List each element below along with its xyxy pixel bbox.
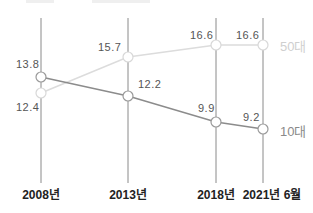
series-label-10s: 10대 [280, 124, 306, 139]
point-50s-2018 [211, 40, 221, 50]
header-remnant [92, 0, 150, 3]
value-label-50s-2008: 12.4 [16, 101, 39, 113]
line-chart: 12.4 15.7 16.6 16.6 13.8 12.2 9.9 9.2 50… [0, 0, 313, 213]
point-10s-2013 [123, 91, 133, 101]
value-label-10s-2008: 13.8 [16, 58, 39, 70]
x-tick-2018: 2018년 [197, 188, 235, 202]
point-10s-2008 [36, 72, 46, 82]
point-10s-2018 [211, 117, 221, 127]
value-label-50s-2018: 16.6 [190, 29, 213, 41]
series-label-50s: 50대 [280, 39, 306, 54]
value-label-10s-2018: 9.9 [198, 102, 215, 114]
header-remnant [26, 0, 54, 3]
value-label-50s-2021: 16.6 [236, 29, 259, 41]
x-tick-2021-june: 2021년 6월 [243, 187, 302, 202]
point-50s-2021 [258, 40, 268, 50]
x-tick-2013: 2013년 [109, 188, 147, 202]
x-tick-2008: 2008년 [22, 188, 60, 202]
value-label-10s-2021: 9.2 [243, 111, 260, 123]
point-50s-2008 [36, 88, 46, 98]
point-10s-2021 [258, 124, 268, 134]
point-50s-2013 [123, 52, 133, 62]
value-label-10s-2013: 12.2 [138, 78, 161, 90]
value-label-50s-2013: 15.7 [98, 41, 121, 53]
